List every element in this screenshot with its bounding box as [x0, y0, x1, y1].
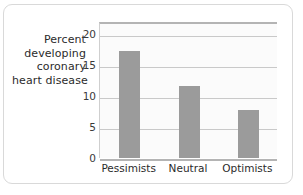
y-tick-label: 0 — [89, 152, 96, 164]
x-tick-label: Pessimists — [101, 162, 155, 174]
chart-figure: Percent developing coronary heart diseas… — [0, 0, 303, 195]
bar — [119, 51, 140, 158]
y-tick-label: 10 — [83, 90, 96, 102]
y-axis-label-line-2: developing — [12, 47, 86, 61]
plot-inner — [100, 24, 277, 158]
y-axis-label: Percent developing coronary heart diseas… — [12, 33, 86, 87]
y-axis-tick-labels: 05101520 — [78, 20, 96, 162]
y-axis-label-line-3: coronary — [12, 60, 86, 74]
x-tick-label: Neutral — [169, 162, 208, 174]
x-tick-label: Optimists — [222, 162, 272, 174]
y-axis-label-line-1: Percent — [12, 33, 86, 47]
bar — [179, 86, 200, 158]
gridline — [100, 36, 277, 37]
x-axis-line — [100, 159, 277, 161]
y-axis-label-line-4: heart disease — [12, 74, 86, 88]
bar — [238, 110, 259, 158]
y-tick-label: 15 — [83, 59, 96, 71]
plot-area — [99, 22, 277, 158]
y-tick-label: 5 — [89, 121, 96, 133]
y-tick-label: 20 — [83, 28, 96, 40]
x-axis-tick-labels: PessimistsNeutralOptimists — [99, 162, 277, 178]
